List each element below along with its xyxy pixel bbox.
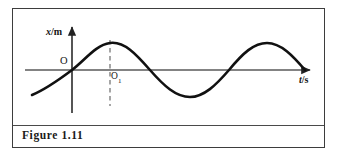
caption-divider bbox=[13, 125, 324, 126]
y-axis-unit: /m bbox=[51, 26, 62, 37]
point-o1-label: O1 bbox=[111, 71, 121, 84]
point-o1-subscript: 1 bbox=[118, 77, 122, 85]
figure-caption: Figure 1.11 bbox=[22, 129, 83, 141]
figure-container: x/m t/s O O1 Figure 1.11 bbox=[0, 0, 339, 157]
y-axis-label: x/m bbox=[46, 26, 62, 37]
origin-label: O bbox=[60, 55, 68, 66]
point-o1-letter: O bbox=[111, 71, 118, 81]
x-axis-label: t/s bbox=[299, 74, 308, 85]
x-axis-unit: /s bbox=[302, 74, 309, 85]
